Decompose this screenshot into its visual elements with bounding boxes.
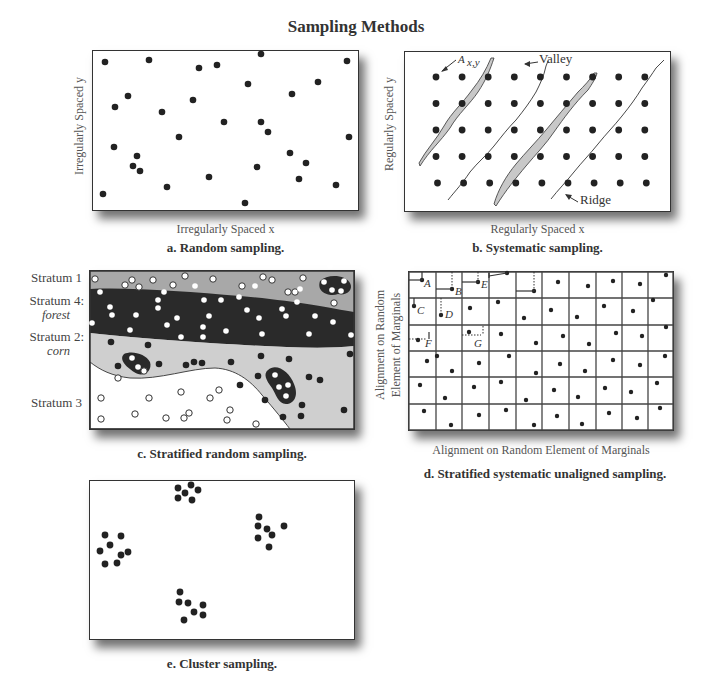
cluster-point [191, 609, 198, 616]
cluster-point [185, 600, 192, 607]
cluster-plot [0, 0, 712, 681]
cluster-point [125, 549, 132, 556]
cluster-point [200, 612, 207, 619]
cluster-point [255, 535, 262, 542]
cluster-point [175, 485, 182, 492]
cluster-point [264, 526, 271, 533]
cluster-point [107, 542, 114, 549]
cluster-point [189, 497, 196, 504]
cluster-point [175, 495, 182, 502]
cluster-point [200, 602, 207, 609]
cluster-point [281, 523, 288, 530]
cluster-point [118, 533, 125, 540]
cluster-point [97, 548, 104, 555]
cluster-point [182, 490, 189, 497]
cluster-caption: e. Cluster sampling. [89, 656, 355, 672]
cluster-point [177, 589, 184, 596]
cluster-point [188, 482, 195, 489]
cluster-point [102, 561, 109, 568]
cluster-point [114, 560, 121, 567]
cluster-point [102, 532, 109, 539]
cluster-point [255, 523, 262, 530]
cluster-point [176, 599, 183, 606]
cluster-point [118, 552, 125, 559]
cluster-point [256, 514, 263, 521]
cluster-point [269, 532, 276, 539]
cluster-point [266, 544, 273, 551]
cluster-point [195, 487, 202, 494]
cluster-point [181, 617, 188, 624]
